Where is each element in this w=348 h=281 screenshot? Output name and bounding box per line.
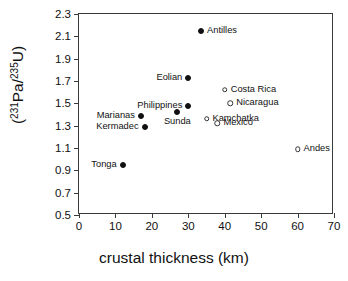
y-axis-tick-label: 0.7 xyxy=(55,187,71,199)
data-point-marker xyxy=(295,146,301,152)
y-axis-tick-mark xyxy=(74,81,79,82)
x-axis-tick-mark xyxy=(115,213,116,218)
y-axis-tick-mark xyxy=(74,14,79,15)
data-point-marker xyxy=(215,121,221,127)
y-axis-tick-label: 1.1 xyxy=(55,142,71,154)
y-axis-title-open-paren: ( xyxy=(9,119,26,124)
y-axis-tick-mark xyxy=(74,148,79,149)
data-point-marker xyxy=(185,103,191,109)
x-axis-tick-label: 20 xyxy=(145,220,158,232)
data-point-label: Costa Rica xyxy=(231,85,276,94)
x-axis-tick-mark xyxy=(79,213,80,218)
scatter-chart-figure: (231Pa/235U) 0.50.70.91.11.31.51.71.92.1… xyxy=(0,0,348,281)
data-point-label: Marianas xyxy=(97,111,135,120)
x-axis-tick-mark xyxy=(188,213,189,218)
x-axis-tick-mark xyxy=(225,213,226,218)
data-point-label: Mexico xyxy=(223,119,252,128)
data-point-marker xyxy=(120,162,126,168)
y-axis-tick-label: 1.5 xyxy=(55,97,71,109)
data-point-label: Andes xyxy=(304,144,330,153)
data-point-marker xyxy=(222,87,228,93)
y-axis-title-u-close: U) xyxy=(9,46,26,62)
data-point-marker xyxy=(174,109,180,115)
data-point-label: Tonga xyxy=(91,160,116,169)
x-axis-tick-label: 70 xyxy=(328,220,341,232)
x-axis-tick-label: 0 xyxy=(76,220,82,232)
data-point-marker xyxy=(198,28,204,34)
y-axis-tick-mark xyxy=(74,103,79,104)
x-axis-title: crustal thickness (km) xyxy=(0,249,348,267)
y-axis-title-superscript-231: 231 xyxy=(9,102,20,119)
x-axis-tick-mark xyxy=(261,213,262,218)
x-axis-tick-label: 60 xyxy=(291,220,304,232)
data-point-label: Nicaragua xyxy=(236,99,278,108)
x-axis-tick-label: 30 xyxy=(182,220,195,232)
y-axis-tick-label: 1.9 xyxy=(55,53,71,65)
y-axis-title: (231Pa/235U) xyxy=(9,0,27,175)
x-axis-tick-label: 50 xyxy=(255,220,268,232)
data-point-label: Kermadec xyxy=(96,122,138,131)
y-axis-tick-label: 0.9 xyxy=(55,164,71,176)
x-axis-tick-mark xyxy=(152,213,153,218)
data-point-marker xyxy=(142,124,148,130)
y-axis-tick-mark xyxy=(74,36,79,37)
y-axis-tick-mark xyxy=(74,59,79,60)
plot-area: 0.50.70.91.11.31.51.71.92.12.3 010203040… xyxy=(78,13,333,214)
y-axis-tick-label: 2.3 xyxy=(55,8,71,20)
y-axis-tick-label: 0.5 xyxy=(55,209,71,221)
y-axis-tick-mark xyxy=(74,126,79,127)
y-axis-tick-mark xyxy=(74,193,79,194)
data-point-label: Eolian xyxy=(156,73,182,82)
y-axis-title-pa: Pa/ xyxy=(9,79,26,102)
y-axis-title-superscript-235: 235 xyxy=(9,62,20,79)
data-point-marker xyxy=(204,116,210,122)
data-point-marker xyxy=(138,113,144,119)
y-axis-tick-label: 1.7 xyxy=(55,75,71,87)
x-axis-tick-label: 40 xyxy=(218,220,231,232)
data-point-marker xyxy=(185,75,191,81)
data-point-marker xyxy=(227,101,233,107)
y-axis-tick-mark xyxy=(74,170,79,171)
x-axis-tick-mark xyxy=(334,213,335,218)
x-axis-tick-label: 10 xyxy=(109,220,122,232)
y-axis-tick-label: 1.3 xyxy=(55,120,71,132)
x-axis-tick-mark xyxy=(298,213,299,218)
data-point-label: Antilles xyxy=(207,26,237,35)
y-axis-tick-label: 2.1 xyxy=(55,30,71,42)
data-point-label: Sunda xyxy=(164,117,191,126)
